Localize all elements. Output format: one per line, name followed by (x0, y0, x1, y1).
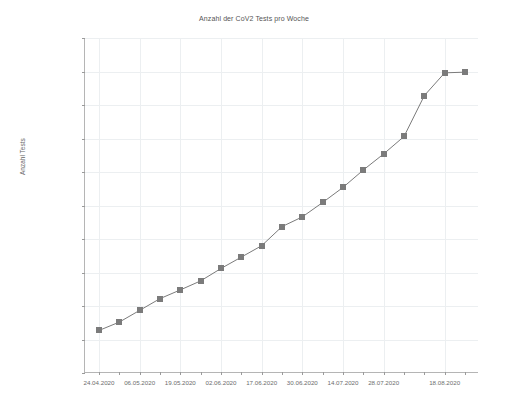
data-point-marker (259, 243, 265, 249)
data-point-marker (218, 265, 224, 271)
x-tick-label: 14.07.2020 (328, 379, 359, 386)
x-tick-label: 28.07.2020 (368, 379, 399, 386)
x-tick-label: 19.05.2020 (165, 379, 196, 386)
data-point-marker (360, 167, 366, 173)
data-point-marker (462, 69, 468, 75)
data-point-marker (320, 199, 326, 205)
data-point-marker (421, 93, 427, 99)
y-tick-mark (82, 373, 85, 374)
y-axis-title: Anzahl Tests (19, 138, 26, 175)
data-point-marker (96, 327, 102, 333)
chart-title: Anzahl der CoV2 Tests pro Woche (0, 15, 508, 22)
data-point-marker (137, 307, 143, 313)
data-point-marker (279, 224, 285, 230)
data-point-marker (238, 254, 244, 260)
x-tick-label: 02.06.2020 (206, 379, 237, 386)
data-point-marker (177, 287, 183, 293)
x-tick-label: 17.06.2020 (246, 379, 277, 386)
data-point-marker (116, 319, 122, 325)
plot-area: 0500 0001 000 0001 500 0002 000 0002 500… (84, 38, 478, 373)
data-point-marker (157, 296, 163, 302)
data-point-marker (299, 214, 305, 220)
data-point-marker (401, 133, 407, 139)
x-tick-label: 06.05.2020 (124, 379, 155, 386)
data-point-marker (381, 151, 387, 157)
x-tick-label: 30.06.2020 (287, 379, 318, 386)
data-point-marker (340, 184, 346, 190)
x-tick-label: 18.08.2020 (429, 379, 460, 386)
series-line (85, 38, 479, 373)
data-point-marker (198, 278, 204, 284)
data-point-marker (442, 70, 448, 76)
chart-container: Anzahl der CoV2 Tests pro Woche Anzahl T… (0, 0, 508, 410)
x-tick-label: 24.04.2020 (84, 379, 115, 386)
